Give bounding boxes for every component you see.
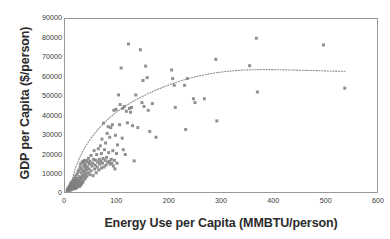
data-point [136,126,139,129]
data-point [174,106,177,109]
data-point [103,148,106,151]
data-point [107,125,110,128]
data-point [173,84,176,87]
data-point [126,121,129,124]
data-point [215,119,218,122]
data-point [130,106,133,109]
data-point [171,77,174,80]
data-point [255,37,258,40]
data-point [91,165,94,168]
data-point [91,162,94,165]
data-point [85,168,88,171]
data-point [140,101,143,104]
data-point [139,48,142,51]
data-point [100,166,103,169]
data-point [113,159,116,162]
data-point [95,171,98,174]
data-point [113,167,116,170]
data-point [116,162,119,165]
x-tick-label: 500 [311,197,341,204]
x-tick-label: 300 [206,197,236,204]
data-point [186,77,189,80]
data-point [111,149,114,152]
data-point [106,132,109,135]
data-point [95,153,98,156]
x-tick-label: 0 [49,197,79,204]
data-point [99,144,102,147]
data-point [124,153,127,156]
data-point [105,164,108,167]
data-point [117,93,120,96]
data-point [111,123,114,126]
data-point [133,159,136,162]
data-point [203,97,206,100]
data-point [87,157,90,160]
data-point [116,143,119,146]
data-point [109,126,112,129]
data-point [142,79,145,82]
data-point [108,136,111,139]
data-point [93,167,96,170]
data-point [90,154,93,157]
data-point [92,174,95,177]
data-point [93,149,96,152]
data-point [100,138,103,141]
data-point [102,122,105,125]
data-point [110,162,113,165]
data-point [183,84,186,87]
data-point [114,108,117,111]
data-point [88,163,91,166]
scatter-series [66,37,347,192]
data-point [155,136,158,139]
data-point [90,169,93,172]
data-point [170,68,173,71]
data-point [119,103,122,106]
data-point [88,173,91,176]
data-point [100,152,103,155]
data-point [248,64,251,67]
data-point [131,124,134,127]
data-point [110,158,113,161]
data-point [78,168,81,171]
data-point [322,43,325,46]
scatter-plot-canvas [65,19,377,192]
data-point [114,134,117,137]
chart-figure: GDP per Capita ($/person) 01000020000300… [0,0,390,239]
data-point [192,97,195,100]
data-point [104,159,107,162]
data-point [96,166,99,169]
data-point [112,165,115,168]
data-point [343,87,346,90]
data-point [147,109,150,112]
x-tick-label: 100 [101,197,131,204]
x-axis-title: Energy Use per Capita (MMBTU/person) [64,216,378,230]
data-point [184,128,187,131]
x-tick-label: 400 [258,197,288,204]
data-point [107,151,110,154]
data-point [214,58,217,61]
plot-area [64,18,378,193]
data-point [151,102,154,105]
data-point [97,168,100,171]
data-point [104,142,107,145]
data-point [121,137,124,140]
data-point [118,123,121,126]
data-point [129,111,132,114]
data-point [127,43,130,46]
data-point [146,76,149,79]
data-point [148,130,151,133]
data-point [120,67,123,70]
data-point [97,147,100,150]
data-point [105,156,108,159]
data-point [134,93,137,96]
data-point [256,91,259,94]
data-point [85,175,88,178]
x-tick-label: 200 [154,197,184,204]
data-point [143,105,146,108]
data-point [144,65,147,68]
data-point [194,101,197,104]
data-point [101,162,104,165]
data-point [115,152,118,155]
data-point [88,160,91,163]
x-tick-label: 600 [363,197,390,204]
